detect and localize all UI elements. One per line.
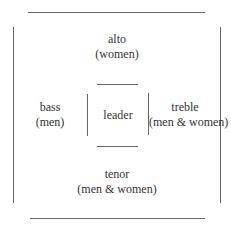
outer-bottom-line [30, 218, 205, 219]
bass-label: bass [15, 100, 85, 115]
tenor-members: (men & women) [67, 182, 167, 197]
outer-left-line [13, 27, 14, 203]
leader-section: leader [88, 108, 148, 123]
alto-members: (women) [77, 47, 157, 62]
outer-top-line [28, 12, 205, 13]
bass-section: bass (men) [15, 100, 85, 130]
alto-section: alto (women) [77, 32, 157, 62]
bass-members: (men) [15, 115, 85, 130]
inner-top-line [97, 84, 138, 85]
treble-section: treble (men & women) [149, 100, 221, 130]
treble-members: (men & women) [149, 115, 221, 130]
treble-label: treble [149, 100, 221, 115]
tenor-label: tenor [67, 167, 167, 182]
tenor-section: tenor (men & women) [67, 167, 167, 197]
inner-bottom-line [97, 146, 138, 147]
leader-label: leader [88, 108, 148, 123]
alto-label: alto [77, 32, 157, 47]
